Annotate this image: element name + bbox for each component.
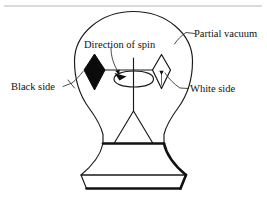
direction-of-spin-leader-line [111, 48, 119, 73]
pedestal-base-plinth [81, 175, 186, 189]
label-white-side: White side [190, 83, 236, 94]
label-black-side: Black side [11, 81, 55, 92]
spin-direction-arrowhead-icon [115, 73, 127, 81]
label-direction-of-spin: Direction of spin [84, 39, 156, 50]
label-partial-vacuum: Partial vacuum [194, 28, 257, 39]
pedestal-base-shading [164, 144, 186, 176]
diagram-canvas: Partial vacuum Direction of spin Black s… [0, 0, 267, 198]
pedestal-plinth-right-shading [181, 175, 187, 189]
black-vane-diamond [84, 54, 105, 90]
spindle-support-triangle [114, 111, 153, 144]
black-side-leader-line [63, 72, 83, 87]
partial-vacuum-leader-line [175, 33, 195, 45]
radiometer-diagram-page: Partial vacuum Direction of spin Black s… [0, 0, 267, 198]
